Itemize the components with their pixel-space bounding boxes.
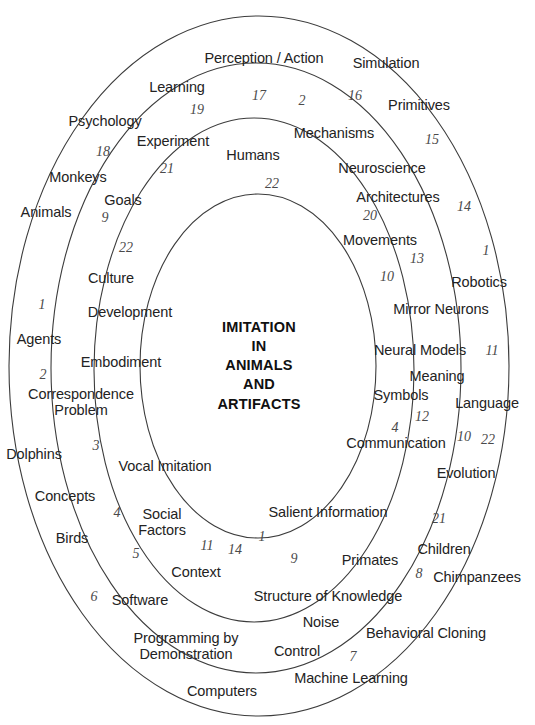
reference-number: 21 <box>432 511 446 527</box>
topic-label: Evolution <box>437 466 496 481</box>
reference-number: 6 <box>91 589 98 605</box>
topic-label: Robotics <box>451 275 507 290</box>
topic-label: SocialFactors <box>138 506 186 538</box>
reference-number: 19 <box>190 102 204 118</box>
topic-label: Experiment <box>137 134 209 149</box>
topic-label: Architectures <box>356 190 439 205</box>
reference-number: 10 <box>457 429 471 445</box>
reference-number: 10 <box>380 269 394 285</box>
topic-label: Language <box>455 396 519 411</box>
reference-number: 12 <box>415 409 429 425</box>
topic-label: Primitives <box>388 98 450 113</box>
topic-label: Software <box>112 593 168 608</box>
topic-label: Animals <box>21 205 72 220</box>
topic-label: Learning <box>149 80 205 95</box>
topic-label: Context <box>171 565 220 580</box>
reference-number: 14 <box>457 199 471 215</box>
topic-label: Primates <box>342 553 398 568</box>
topic-label: Symbols <box>374 388 429 403</box>
reference-number: 4 <box>114 505 121 521</box>
reference-number: 4 <box>392 420 399 436</box>
topic-label: CorrespondenceProblem <box>28 386 134 418</box>
reference-number: 16 <box>348 88 362 104</box>
topic-label: Embodiment <box>81 355 161 370</box>
topic-label: Perception / Action <box>204 51 323 66</box>
topic-label: Mechanisms <box>294 126 374 141</box>
topic-label: Machine Learning <box>294 671 408 686</box>
center-title: IMITATION IN ANIMALS AND ARTIFACTS <box>217 318 300 414</box>
topic-label: Mirror Neurons <box>393 302 488 317</box>
reference-number: 1 <box>39 297 46 313</box>
topic-label: Children <box>417 542 470 557</box>
topic-label: Structure of Knowledge <box>254 589 403 604</box>
topic-label: Behavioral Cloning <box>366 626 486 641</box>
topic-label: Psychology <box>68 114 141 129</box>
reference-number: 1 <box>259 529 266 545</box>
reference-number: 22 <box>265 176 279 192</box>
topic-label: Salient Information <box>269 505 388 520</box>
reference-number: 14 <box>228 542 242 558</box>
reference-number: 2 <box>40 367 47 383</box>
reference-number: 5 <box>133 546 140 562</box>
topic-label: Neural Models <box>374 343 466 358</box>
reference-number: 22 <box>481 432 495 448</box>
topic-label: Dolphins <box>6 447 62 462</box>
topic-label: Vocal Imitation <box>119 459 212 474</box>
reference-number: 20 <box>363 208 377 224</box>
reference-number: 18 <box>96 144 110 160</box>
topic-label: Neuroscience <box>338 161 425 176</box>
topic-label: Culture <box>88 271 134 286</box>
reference-number: 17 <box>252 88 266 104</box>
topic-label: Meaning <box>410 369 465 384</box>
topic-label: Control <box>274 644 320 659</box>
topic-label: Humans <box>226 148 279 163</box>
topic-label: Agents <box>17 332 62 347</box>
topic-label: Development <box>88 305 172 320</box>
topic-label: Communication <box>346 436 445 451</box>
topic-label: Birds <box>56 531 89 546</box>
reference-number: 9 <box>291 551 298 567</box>
topic-label: Programming byDemonstration <box>134 630 239 662</box>
reference-number: 1 <box>483 243 490 259</box>
topic-label: Computers <box>187 684 257 699</box>
reference-number: 11 <box>201 538 214 554</box>
reference-number: 9 <box>102 210 109 226</box>
topic-label: Concepts <box>35 489 95 504</box>
reference-number: 8 <box>416 566 423 582</box>
reference-number: 22 <box>119 240 133 256</box>
topic-label: Simulation <box>353 56 420 71</box>
topic-label: Monkeys <box>49 170 106 185</box>
reference-number: 21 <box>160 161 174 177</box>
topic-label: Goals <box>104 193 141 208</box>
topic-label: Movements <box>343 233 417 248</box>
reference-number: 13 <box>410 251 424 267</box>
topic-label: Chimpanzees <box>433 570 521 585</box>
reference-number: 7 <box>350 649 357 665</box>
topic-label: Noise <box>303 615 340 630</box>
reference-number: 3 <box>93 438 100 454</box>
reference-number: 2 <box>299 93 306 109</box>
concept-map-figure: IMITATION IN ANIMALS AND ARTIFACTS Perce… <box>0 0 535 725</box>
reference-number: 11 <box>486 343 499 359</box>
reference-number: 15 <box>425 132 439 148</box>
